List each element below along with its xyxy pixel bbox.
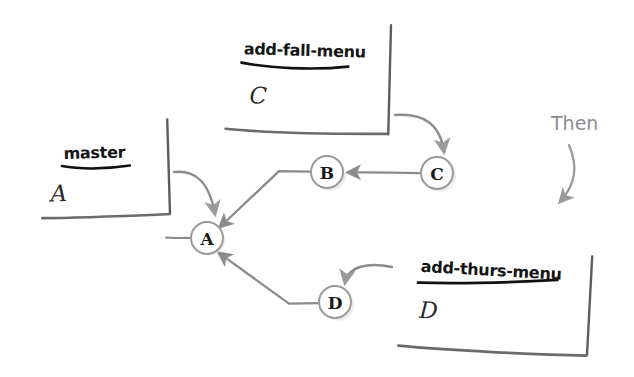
node-b-letter: B [320,163,334,183]
node-c-letter: C [430,164,444,184]
arrow-master-to-a [174,172,215,214]
node-a[interactable]: A [191,222,225,256]
card-add-thurs-menu[interactable]: add-thurs-menu D [397,245,593,359]
card-add-thurs-menu-commit: D [418,297,439,324]
node-d-letter: D [328,293,343,313]
diagram-canvas: master A add-fall-menu C add-thurs-menu … [0,0,634,377]
arrow-thurs-to-d [345,265,392,283]
diagram-svg: master A add-fall-menu C add-thurs-menu … [0,0,634,377]
node-b[interactable]: B [311,156,346,191]
node-c[interactable]: C [421,157,456,192]
arrow-fall-to-c [395,115,444,152]
card-add-fall-menu-commit: C [249,82,268,108]
edge-history-stub [166,238,190,239]
card-master-commit: A [48,180,67,206]
card-add-fall-menu[interactable]: add-fall-menu C [224,20,391,138]
card-master[interactable]: master A [39,118,170,219]
edge-d-to-a [219,253,319,304]
annotation-then-arrow [560,145,574,202]
node-a-letter: A [199,229,214,249]
edge-c-to-b [348,172,419,173]
edge-b-to-a [220,171,311,227]
card-master-label: master [63,142,125,163]
annotation-then: Then [550,112,598,134]
node-d[interactable]: D [319,286,354,321]
card-add-fall-menu-label: add-fall-menu [244,39,367,61]
